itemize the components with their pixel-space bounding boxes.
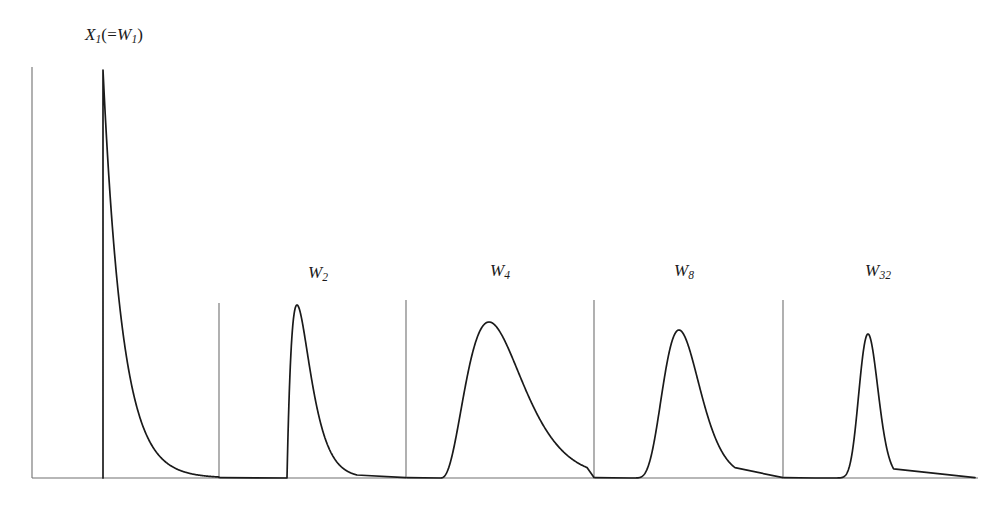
density-curve-w4 — [407, 322, 594, 478]
density-curve-w8 — [595, 330, 783, 478]
density-curve-w2 — [220, 305, 406, 478]
label-x1-w-symbol: W — [117, 25, 131, 44]
panel-label-w8: W8 — [674, 261, 694, 281]
label-x1-w-subscript: 1 — [131, 33, 137, 46]
density-curve-w32 — [784, 334, 975, 478]
panel-label-w2: W2 — [308, 263, 328, 283]
label-x1-symbol: X — [85, 25, 96, 44]
panel-label-w32: W32 — [865, 261, 891, 281]
label-w8-symbol: W — [674, 261, 688, 280]
plot-canvas — [0, 0, 984, 506]
label-w32-subscript: 32 — [879, 269, 891, 282]
label-w4-subscript: 4 — [504, 269, 510, 282]
label-w32-symbol: W — [865, 261, 879, 280]
label-w4-symbol: W — [490, 261, 504, 280]
panel-label-w4: W4 — [490, 261, 510, 281]
label-w8-subscript: 8 — [688, 269, 694, 282]
label-x1-paren-open: (= — [101, 25, 117, 44]
panel-label-x1: X1(=W1) — [85, 25, 143, 45]
label-x1-subscript: 1 — [96, 33, 102, 46]
label-w2-subscript: 2 — [322, 271, 328, 284]
density-curve-x1 — [103, 70, 219, 478]
label-w2-symbol: W — [308, 263, 322, 282]
gamma-density-figure: X1(=W1) W2 W4 W8 W32 — [0, 0, 984, 506]
label-x1-paren-close: ) — [137, 25, 143, 44]
curves-layer — [103, 70, 975, 478]
